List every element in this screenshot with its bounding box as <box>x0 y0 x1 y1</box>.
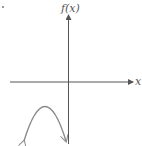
graph-svg <box>0 0 142 146</box>
y-axis-label: f(x) <box>61 3 80 14</box>
graph-figure: f(x) x <box>0 0 142 146</box>
parabola-curve <box>24 107 66 142</box>
x-axis-label: x <box>135 76 141 87</box>
